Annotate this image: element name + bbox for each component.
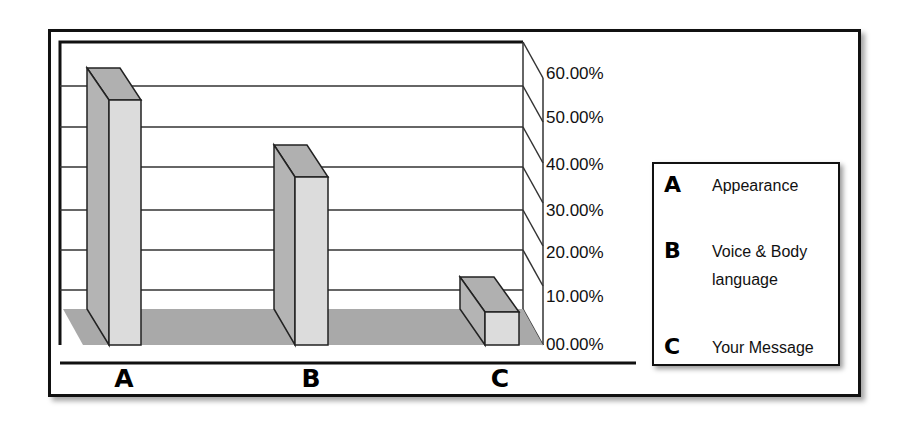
bar-a <box>87 68 141 345</box>
legend-item-c: C Your Message <box>664 334 832 362</box>
category-label-a: A <box>104 364 144 393</box>
legend-label-b: Voice & Body language <box>712 238 832 294</box>
chart-legend: A Appearance B Voice & Body language C Y… <box>652 162 840 366</box>
legend-key-c: C <box>664 334 712 360</box>
y-tick-20: 20.00% <box>546 243 604 263</box>
legend-key-b: B <box>664 238 712 264</box>
category-label-c: C <box>480 364 520 393</box>
legend-label-b-line1: Voice & Body <box>712 243 807 260</box>
y-tick-10: 10.00% <box>546 287 604 307</box>
side-wall <box>523 42 543 345</box>
y-tick-50: 50.00% <box>546 108 604 128</box>
y-tick-40: 40.00% <box>546 155 604 175</box>
legend-label-c: Your Message <box>712 334 832 362</box>
legend-label-b-line2: language <box>712 271 778 288</box>
legend-item-b: B Voice & Body language <box>664 238 832 294</box>
category-label-b: B <box>291 364 331 393</box>
y-tick-30: 30.00% <box>546 201 604 221</box>
y-tick-0: 00.00% <box>546 335 604 355</box>
bar-b <box>274 145 328 345</box>
legend-key-a: A <box>664 172 712 198</box>
y-tick-60: 60.00% <box>546 64 604 84</box>
legend-item-a: A Appearance <box>664 172 832 200</box>
legend-label-a: Appearance <box>712 172 832 200</box>
